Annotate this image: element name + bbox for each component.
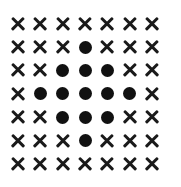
grid-cell-r3-c1	[29, 82, 51, 105]
cross-icon	[11, 110, 25, 124]
grid-cell-r3-c3	[74, 82, 96, 105]
grid-cell-r1-c3	[74, 35, 96, 58]
grid-cell-r0-c2	[52, 12, 74, 35]
grid-cell-r6-c2	[52, 152, 74, 175]
cross-icon	[145, 134, 159, 148]
grid-cell-r5-c4	[96, 129, 118, 152]
dot-icon	[123, 87, 136, 100]
grid-cell-r1-c6	[141, 35, 163, 58]
cross-icon	[100, 134, 114, 148]
grid-cell-r1-c5	[118, 35, 140, 58]
grid-cell-r0-c1	[29, 12, 51, 35]
cross-icon	[100, 157, 114, 171]
grid-cell-r1-c2	[52, 35, 74, 58]
grid-cell-r5-c1	[29, 129, 51, 152]
grid-cell-r0-c6	[141, 12, 163, 35]
grid-cell-r2-c4	[96, 59, 118, 82]
cross-icon	[33, 17, 47, 31]
dot-icon	[56, 87, 69, 100]
grid-cell-r3-c0	[7, 82, 29, 105]
cross-icon	[56, 134, 70, 148]
grid-cell-r6-c0	[7, 152, 29, 175]
grid-cell-r4-c3	[74, 106, 96, 129]
dot-icon	[79, 111, 92, 124]
dot-icon	[79, 134, 92, 147]
cross-icon	[11, 134, 25, 148]
cross-icon	[56, 157, 70, 171]
grid-cell-r2-c0	[7, 59, 29, 82]
dot-icon	[101, 64, 114, 77]
grid-cell-r1-c1	[29, 35, 51, 58]
grid-cell-r5-c6	[141, 129, 163, 152]
grid-cell-r4-c6	[141, 106, 163, 129]
cross-icon	[33, 63, 47, 77]
cross-icon	[33, 134, 47, 148]
cross-icon	[33, 40, 47, 54]
grid-cell-r4-c0	[7, 106, 29, 129]
cross-icon	[145, 63, 159, 77]
grid-cell-r0-c4	[96, 12, 118, 35]
grid-cell-r6-c1	[29, 152, 51, 175]
grid-cell-r5-c0	[7, 129, 29, 152]
cross-icon	[123, 17, 137, 31]
cross-icon	[33, 157, 47, 171]
dot-icon	[101, 111, 114, 124]
cross-icon	[33, 110, 47, 124]
grid-cell-r0-c0	[7, 12, 29, 35]
grid-cell-r6-c4	[96, 152, 118, 175]
cross-icon	[11, 157, 25, 171]
cross-icon	[100, 17, 114, 31]
dot-icon	[79, 41, 92, 54]
cross-icon	[123, 157, 137, 171]
cross-icon	[78, 157, 92, 171]
cross-icon	[145, 40, 159, 54]
cross-icon	[78, 17, 92, 31]
cross-icon	[11, 40, 25, 54]
dot-icon	[56, 64, 69, 77]
grid-cell-r3-c5	[118, 82, 140, 105]
cross-icon	[11, 87, 25, 101]
cross-icon	[145, 87, 159, 101]
cross-icon	[56, 17, 70, 31]
cross-icon	[123, 110, 137, 124]
grid-cell-r5-c3	[74, 129, 96, 152]
grid-cell-r2-c1	[29, 59, 51, 82]
grid-cell-r5-c2	[52, 129, 74, 152]
grid-cell-r5-c5	[118, 129, 140, 152]
cross-icon	[11, 17, 25, 31]
grid-cell-r0-c3	[74, 12, 96, 35]
grid-cell-r2-c5	[118, 59, 140, 82]
grid-cell-r3-c2	[52, 82, 74, 105]
dot-icon	[79, 87, 92, 100]
grid-cell-r2-c6	[141, 59, 163, 82]
cross-icon	[123, 134, 137, 148]
dot-icon	[101, 87, 114, 100]
dot-icon	[79, 64, 92, 77]
dot-icon	[56, 111, 69, 124]
grid-cell-r3-c6	[141, 82, 163, 105]
cross-icon	[56, 40, 70, 54]
grid-cell-r4-c5	[118, 106, 140, 129]
grid-cell-r1-c4	[96, 35, 118, 58]
grid-cell-r4-c4	[96, 106, 118, 129]
grid-cell-r3-c4	[96, 82, 118, 105]
cross-icon	[145, 110, 159, 124]
grid-cell-r2-c2	[52, 59, 74, 82]
cross-icon	[145, 17, 159, 31]
symbol-grid	[7, 12, 163, 176]
grid-cell-r4-c1	[29, 106, 51, 129]
cross-icon	[100, 40, 114, 54]
cross-icon	[123, 40, 137, 54]
grid-cell-r6-c3	[74, 152, 96, 175]
grid-cell-r6-c6	[141, 152, 163, 175]
cross-icon	[123, 63, 137, 77]
grid-cell-r6-c5	[118, 152, 140, 175]
dot-icon	[34, 87, 47, 100]
grid-cell-r0-c5	[118, 12, 140, 35]
grid-cell-r4-c2	[52, 106, 74, 129]
grid-cell-r2-c3	[74, 59, 96, 82]
cross-icon	[11, 63, 25, 77]
cross-icon	[145, 157, 159, 171]
grid-cell-r1-c0	[7, 35, 29, 58]
